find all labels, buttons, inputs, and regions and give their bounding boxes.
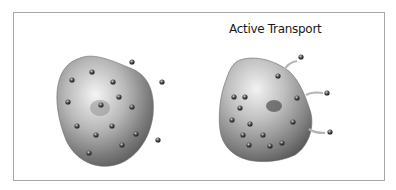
diagram-title: Active Transport <box>229 22 321 36</box>
diagram-canvas <box>0 0 396 190</box>
right-cell <box>219 58 312 162</box>
left-cell <box>57 56 154 166</box>
